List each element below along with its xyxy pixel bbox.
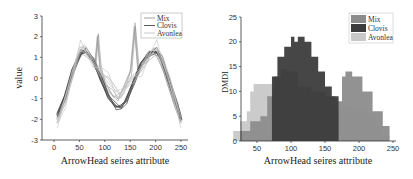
y-tick-label: -1 xyxy=(31,94,38,103)
y-tick-label: 2 xyxy=(34,32,38,41)
x-tick-label: 0 xyxy=(52,143,56,152)
area-chart-dmdi: 252015105050100150200250ArrowHead seires… xyxy=(221,13,399,166)
x-tick-label: 200 xyxy=(353,144,366,153)
y-tick-label: 0 xyxy=(233,137,237,146)
x-tick-label: 200 xyxy=(149,143,162,152)
series-area-clovis xyxy=(272,37,339,141)
y-axis-label: value xyxy=(13,67,24,89)
x-tick-label: 100 xyxy=(99,143,112,152)
legend-swatch-mix xyxy=(351,15,366,23)
series-line-avonlea xyxy=(57,45,180,123)
legend-label-clovis: Clovis xyxy=(368,24,388,33)
x-tick-label: 100 xyxy=(285,144,298,153)
legend: MixClovisAvonlea xyxy=(349,13,394,43)
legend-label-mix: Mix xyxy=(368,15,381,24)
legend: MixClovisAvonlea xyxy=(141,13,183,38)
x-axis-label: ArrowHead seires attribute xyxy=(264,155,373,166)
line-chart-value: 3210-1-2-3050100150200250ArrowHead seire… xyxy=(13,12,188,166)
y-tick-label: 25 xyxy=(229,13,237,22)
y-tick-label: -2 xyxy=(31,115,38,124)
figure: 3210-1-2-3050100150200250ArrowHead seire… xyxy=(0,0,413,179)
y-tick-label: 5 xyxy=(233,112,237,121)
series-line-mix xyxy=(58,27,181,123)
x-tick-label: 150 xyxy=(124,143,137,152)
y-tick-label: 1 xyxy=(34,53,38,62)
x-tick-label: 50 xyxy=(75,143,83,152)
y-axis-label: DMDI xyxy=(221,71,230,93)
legend-label-avonlea: Avonlea xyxy=(368,33,394,42)
y-tick-label: 3 xyxy=(34,12,38,21)
x-tick-label: 250 xyxy=(175,143,188,152)
legend-label-avonlea: Avonlea xyxy=(157,29,183,38)
y-tick-label: 20 xyxy=(229,37,237,46)
x-tick-label: 250 xyxy=(387,144,400,153)
y-tick-label: 15 xyxy=(229,62,237,71)
x-tick-label: 50 xyxy=(253,144,261,153)
series-line-avonlea xyxy=(58,40,181,123)
legend-swatch-avonlea xyxy=(351,33,366,41)
x-axis-label: ArrowHead seires attribute xyxy=(61,155,170,166)
x-tick-label: 150 xyxy=(319,144,332,153)
legend-swatch-clovis xyxy=(351,24,366,32)
y-tick-label: 0 xyxy=(34,74,38,83)
y-tick-label: -3 xyxy=(31,136,38,145)
